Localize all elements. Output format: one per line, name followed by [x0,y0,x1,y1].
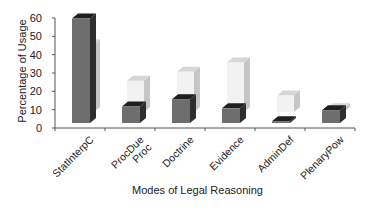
bar-series1-0-side [90,14,96,124]
bar-series1-4-front [272,121,290,123]
y-tick-label: 20 [22,85,42,97]
y-tick-label: 10 [22,104,42,116]
chart-container: Percentage of Usage Modes of Legal Reaso… [0,0,385,210]
y-tick-label: 0 [22,122,42,134]
y-tick-label: 30 [22,67,42,79]
y-tick-label: 60 [22,12,42,24]
y-tick-label: 50 [22,30,42,42]
bar-series1-2-side [190,94,196,123]
bar-series1-5-front [322,110,340,123]
bar-series1-3-front [222,108,240,123]
bar-series1-2-front [172,99,190,123]
bar-series2-4-front [277,96,294,113]
y-tick-label: 40 [22,49,42,61]
bar-series1-0-front [72,19,90,124]
bar-series1-1-front [122,107,140,124]
